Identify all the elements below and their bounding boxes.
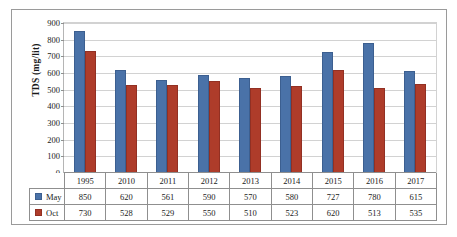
x-axis-category-label: 2017 (395, 173, 436, 189)
x-axis-category-label: 2010 (106, 173, 147, 189)
bar-series-group (64, 23, 436, 173)
y-axis-title: TDS (mg/lit) (31, 22, 41, 118)
data-cell-oct-2016: 513 (354, 205, 395, 221)
legend-swatch-may-icon (35, 193, 42, 200)
data-cell-may-2014: 580 (271, 189, 312, 205)
bar-group (271, 23, 312, 173)
data-cell-oct-2013: 510 (230, 205, 271, 221)
bar-group (188, 23, 229, 173)
data-cell-oct-2012: 550 (188, 205, 229, 221)
bar-group (312, 23, 353, 173)
bar-may-2014[interactable] (280, 76, 291, 173)
bar-may-2010[interactable] (115, 70, 126, 173)
table-row: Oct730528529550510523620513535 (30, 205, 437, 221)
bar-oct-2012[interactable] (209, 81, 220, 173)
table-row: May850620561590570580727780615 (30, 189, 437, 205)
table-row-categories: 199520102011201220132014201520162017 (30, 173, 437, 189)
data-cell-oct-2014: 523 (271, 205, 312, 221)
data-cell-may-1995: 850 (65, 189, 106, 205)
legend-swatch-oct-icon (35, 209, 42, 216)
bar-group (105, 23, 146, 173)
x-axis-category-label: 2012 (188, 173, 229, 189)
bar-may-2015[interactable] (322, 52, 333, 173)
bar-oct-2014[interactable] (291, 86, 302, 173)
y-axis-tick-label: 100 (47, 151, 60, 161)
y-axis-tick-label: 500 (47, 85, 60, 95)
x-axis-category-label: 2015 (312, 173, 353, 189)
x-axis-category-label: 2013 (230, 173, 271, 189)
y-axis-tick-label: 600 (47, 68, 60, 78)
data-cell-oct-2011: 529 (147, 205, 188, 221)
data-table: 199520102011201220132014201520162017May8… (29, 173, 437, 221)
bar-oct-2011[interactable] (167, 85, 178, 173)
legend-label: Oct (46, 208, 58, 218)
bar-group (229, 23, 270, 173)
bar-may-1995[interactable] (74, 31, 85, 173)
bar-group (395, 23, 436, 173)
data-cell-may-2015: 727 (312, 189, 353, 205)
data-cell-may-2016: 780 (354, 189, 395, 205)
bar-may-2017[interactable] (404, 71, 415, 174)
data-cell-oct-1995: 730 (65, 205, 106, 221)
bar-group (147, 23, 188, 173)
bar-oct-2015[interactable] (333, 70, 344, 173)
bar-group (64, 23, 105, 173)
y-axis-tick-label: 400 (47, 101, 60, 111)
data-cell-oct-2015: 620 (312, 205, 353, 221)
data-cell-oct-2017: 535 (395, 205, 436, 221)
bar-oct-2016[interactable] (374, 88, 385, 174)
x-axis-category-label: 2016 (354, 173, 395, 189)
x-axis-category-label: 2014 (271, 173, 312, 189)
bar-may-2013[interactable] (239, 78, 250, 173)
data-cell-may-2011: 561 (147, 189, 188, 205)
y-axis-tick-label: 200 (47, 135, 60, 145)
data-cell-oct-2010: 528 (106, 205, 147, 221)
data-cell-may-2010: 620 (106, 189, 147, 205)
bar-oct-1995[interactable] (85, 51, 96, 173)
chart-container: TDS (mg/lit) 010020030040050060070080090… (11, 9, 447, 225)
data-cell-may-2017: 615 (395, 189, 436, 205)
y-axis-tick-label: 800 (47, 35, 60, 45)
y-axis-tick-label: 700 (47, 51, 60, 61)
table-corner-cell (30, 173, 65, 189)
bar-may-2011[interactable] (156, 80, 167, 174)
data-cell-may-2013: 570 (230, 189, 271, 205)
data-cell-may-2012: 590 (188, 189, 229, 205)
legend-label: May (46, 192, 62, 202)
x-axis-category-label: 1995 (65, 173, 106, 189)
legend-item-oct[interactable]: Oct (30, 205, 65, 221)
y-axis-tick-label: 300 (47, 118, 60, 128)
x-axis-category-label: 2011 (147, 173, 188, 189)
plot-area: 0100200300400500600700800900 (63, 22, 437, 173)
bar-oct-2017[interactable] (415, 84, 426, 173)
legend-item-may[interactable]: May (30, 189, 65, 205)
bar-oct-2013[interactable] (250, 88, 261, 173)
y-axis-tick-label: 900 (47, 18, 60, 28)
bar-may-2012[interactable] (198, 75, 209, 173)
bar-group (353, 23, 394, 173)
bar-oct-2010[interactable] (126, 85, 137, 173)
bar-may-2016[interactable] (363, 43, 374, 173)
